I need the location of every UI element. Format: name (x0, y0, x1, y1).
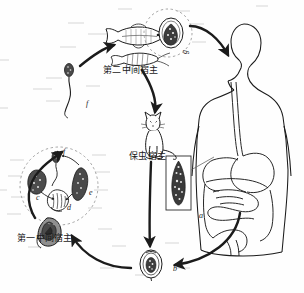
redia (72, 168, 88, 201)
arrow-metacercaria-to-human (190, 26, 228, 55)
arrow-egg-to-snail (72, 236, 131, 268)
stage-marker-d: d (67, 204, 71, 212)
arrow-cat-to-egg (150, 162, 151, 246)
life-cycle-artwork (0, 0, 304, 293)
stage-marker-f: f (86, 100, 88, 108)
operculated-egg (140, 250, 162, 281)
stage-marker-f-snail: f (63, 148, 65, 156)
sporocyst (47, 190, 68, 212)
label-second-intermediate-host: 第二中间宿主 (103, 66, 159, 75)
arrow-cercaria-to-fish (80, 45, 114, 66)
stage-marker-b: b (173, 265, 177, 273)
stage-marker-g: g (181, 50, 189, 54)
life-cycle-figure: 第二中间宿主 第一中间宿主 保虫宿主 a b c d e f f g (0, 0, 304, 293)
arrow-human-to-egg (175, 213, 240, 265)
cercaria (65, 64, 74, 119)
label-first-intermediate-host: 第一中间宿主 (17, 234, 73, 243)
digestive-tract (203, 82, 274, 256)
stage-marker-a: a (199, 212, 203, 220)
arrow-fish-to-cat (142, 70, 155, 112)
stage-marker-e: e (89, 189, 93, 197)
stage-marker-c: c (36, 194, 40, 202)
human-body-outline (192, 24, 291, 256)
label-reservoir-host: 保虫宿主 (129, 152, 166, 161)
